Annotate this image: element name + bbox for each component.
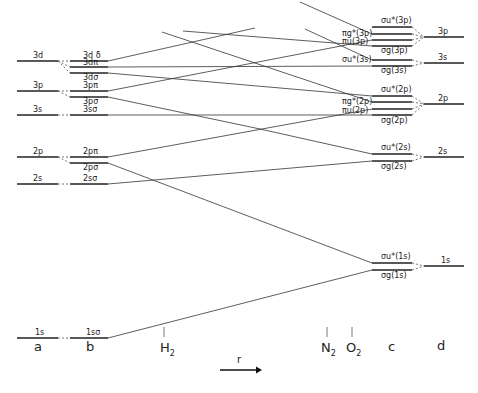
- d-2p-label: 2p: [438, 95, 448, 103]
- r-axis-arrow: [220, 367, 262, 374]
- c-pu2p-label: πu(2p): [342, 107, 368, 115]
- c-su2s-label: σu*(2s): [381, 144, 411, 152]
- r-axis-label: r: [237, 356, 241, 364]
- column-c-label: c: [388, 340, 395, 353]
- b-2ss-label: 2sσ: [83, 175, 97, 183]
- d-1s-label: 1s: [441, 257, 450, 265]
- c-sg2s-label: σg(2s): [381, 163, 407, 171]
- b-3dp-label: 3dπ: [83, 59, 98, 67]
- a-2s-label: 2s: [33, 175, 42, 183]
- b-3ss-label: 3sσ: [83, 106, 97, 114]
- c-pg2p-label: πg*(2p): [342, 98, 372, 106]
- a-3s-label: 3s: [33, 106, 42, 114]
- h2-marker: H2: [160, 341, 175, 360]
- d-3p-label: 3p: [438, 28, 448, 36]
- d-2s-label: 2s: [438, 148, 447, 156]
- column-a-label: a: [34, 340, 42, 353]
- a-1s-label: 1s: [35, 329, 44, 337]
- correlation-diagram-lines: [0, 0, 478, 393]
- molecule-tick-marks: [164, 327, 352, 337]
- column-b-label: b: [86, 340, 94, 353]
- correlation-lines: [108, 2, 372, 338]
- a-2p-label: 2p: [33, 148, 43, 156]
- b-3pp-label: 3pπ: [83, 82, 98, 90]
- o2-marker: O2: [346, 341, 361, 360]
- c-sg3s-label: σg(3s): [381, 67, 407, 75]
- column-d-label: d: [437, 339, 445, 352]
- c-sg1s-label: σg(1s): [381, 272, 407, 280]
- c-sg3p-label: σg(3p): [381, 47, 408, 55]
- c-su2p-label: σu*(2p): [381, 86, 412, 94]
- n2-marker: N2: [321, 341, 336, 360]
- b-2pp-label: 2pπ: [83, 148, 98, 156]
- a-3d-label: 3d: [33, 52, 43, 60]
- c-su3p-label: σu*(3p): [381, 17, 412, 25]
- c-su1s-label: σu*(1s): [381, 253, 411, 261]
- d-3s-label: 3s: [438, 54, 447, 62]
- b-1ss-label: 1sσ: [86, 329, 100, 337]
- b-2ps-label: 2pσ: [83, 164, 98, 172]
- c-su3s-label: σu*(3s): [342, 56, 372, 64]
- a-3p-label: 3p: [33, 82, 43, 90]
- c-pu3p-label: πu(3p): [342, 38, 368, 46]
- c-sg2p-label: σg(2p): [381, 117, 408, 125]
